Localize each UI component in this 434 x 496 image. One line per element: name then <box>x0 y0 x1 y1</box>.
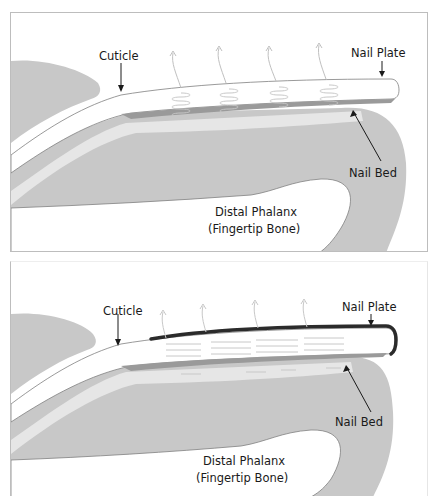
nail-cross-section-before: Cuticle Nail Plate Nail Bed Distal Phala… <box>11 13 428 252</box>
nail-plate-label: Nail Plate <box>342 300 396 314</box>
nail-bed-label: Nail Bed <box>349 166 397 180</box>
cuticle-label: Cuticle <box>99 49 139 63</box>
panel-before-coating: Cuticle Nail Plate Nail Bed Distal Phala… <box>10 12 428 252</box>
nail-cross-section-after: Cuticle Nail Plate Nail Bed Distal Phala… <box>11 262 428 496</box>
panel-after-coating: Cuticle Nail Plate Nail Bed Distal Phala… <box>10 261 428 496</box>
bone-label-line2: (Fingertip Bone) <box>196 471 288 485</box>
bone-label-line2: (Fingertip Bone) <box>208 222 300 236</box>
nail-plate-label: Nail Plate <box>351 46 405 60</box>
nail-bed-label: Nail Bed <box>335 415 383 429</box>
bone-label-line1: Distal Phalanx <box>203 454 285 468</box>
bone-label-line1: Distal Phalanx <box>215 205 297 219</box>
cuticle-label: Cuticle <box>103 304 143 318</box>
